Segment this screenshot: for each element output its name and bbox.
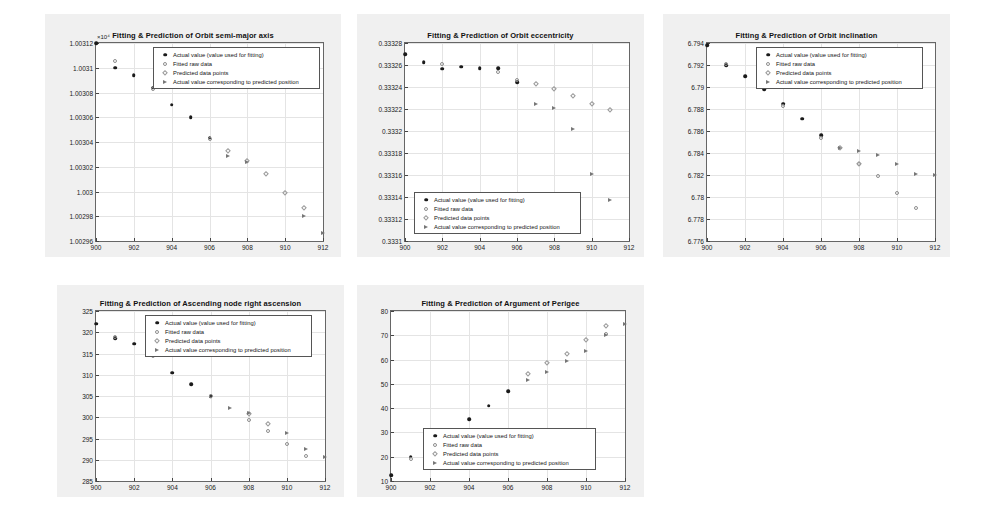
chart-title-argument-of-perigee: Fitting & Prediction of Argument of Peri… bbox=[357, 299, 644, 308]
legend-symbol bbox=[149, 336, 165, 345]
marker-actual-at-predicted-position bbox=[895, 162, 899, 166]
y-tick-mark bbox=[391, 408, 394, 409]
y-tick-mark bbox=[405, 131, 408, 132]
y-tick-mark bbox=[707, 153, 710, 154]
y-tick-label: 6.792 bbox=[688, 62, 704, 69]
legend-semi-major-axis: Actual value (value used for fitting)Fit… bbox=[153, 47, 320, 89]
marker-actual-at-predicted-position bbox=[304, 447, 308, 451]
legend-symbol bbox=[418, 195, 434, 204]
marker-actual-at-predicted-position bbox=[302, 214, 306, 218]
marker-fitted-raw-data bbox=[424, 207, 428, 211]
legend-label: Fitted raw data bbox=[443, 442, 482, 448]
marker-fitted-raw-data bbox=[724, 62, 728, 66]
y-tick-mark bbox=[96, 93, 99, 94]
x-tick-label: 900 bbox=[702, 244, 713, 251]
y-tick-mark bbox=[405, 43, 408, 44]
y-tick-mark bbox=[96, 354, 99, 355]
legend-row: Actual value (value used for fitting) bbox=[149, 318, 308, 327]
y-tick-label: 20 bbox=[381, 453, 388, 460]
marker-actual-at-predicted-position bbox=[604, 333, 608, 337]
legend-row: Actual value corresponding to predicted … bbox=[149, 345, 308, 354]
marker-actual-value bbox=[94, 41, 98, 45]
marker-actual-at-predicted-position bbox=[876, 153, 880, 157]
y-tick-label: 60 bbox=[381, 356, 388, 363]
marker-actual-value bbox=[389, 473, 393, 477]
y-tick-label: 40 bbox=[381, 405, 388, 412]
x-tick-mark bbox=[625, 478, 626, 481]
marker-actual-value bbox=[170, 103, 174, 107]
marker-predicted-data-point bbox=[856, 161, 862, 167]
y-tick-label: 1.003 bbox=[77, 188, 93, 195]
y-tick-mark bbox=[391, 384, 394, 385]
y-tick-label: 6.794 bbox=[688, 40, 704, 47]
y-tick-mark bbox=[707, 175, 710, 176]
legend-symbol bbox=[427, 440, 443, 449]
marker-fitted-raw-data bbox=[766, 62, 770, 66]
y-tick-mark bbox=[96, 417, 99, 418]
x-tick-mark bbox=[172, 478, 173, 481]
marker-actual-value bbox=[171, 371, 175, 375]
marker-actual-value bbox=[467, 417, 471, 421]
marker-actual-value bbox=[189, 115, 193, 119]
marker-fitted-raw-data bbox=[433, 443, 437, 447]
legend-symbol bbox=[157, 68, 173, 77]
y-tick-label: 6.778 bbox=[688, 216, 704, 223]
chart-title-ascending-node-right-ascension: Fitting & Prediction of Ascending node r… bbox=[57, 299, 344, 308]
marker-actual-at-predicted-position bbox=[323, 455, 327, 459]
legend-row: Actual value (value used for fitting) bbox=[427, 431, 592, 440]
legend-row: Actual value (value used for fitting) bbox=[157, 50, 316, 59]
y-axis-exponent-label: ×10⁴ bbox=[97, 34, 110, 40]
legend-inclination: Actual value (value used for fitting)Fit… bbox=[756, 47, 923, 89]
marker-actual-at-predicted-position bbox=[321, 231, 325, 235]
y-tick-label: 6.782 bbox=[688, 172, 704, 179]
legend-symbol bbox=[418, 222, 434, 231]
x-tick-label: 902 bbox=[129, 484, 140, 491]
marker-actual-at-predicted-position bbox=[933, 173, 937, 177]
legend-label: Actual value corresponding to predicted … bbox=[173, 79, 299, 85]
x-tick-mark bbox=[821, 238, 822, 241]
y-tick-label: 320 bbox=[82, 329, 93, 336]
legend-label: Predicted data points bbox=[443, 451, 499, 457]
y-tick-mark bbox=[391, 360, 394, 361]
y-tick-label: 0.33314 bbox=[379, 194, 403, 201]
marker-predicted-data-point bbox=[432, 451, 438, 457]
x-tick-label: 910 bbox=[892, 244, 903, 251]
legend-row: Actual value (value used for fitting) bbox=[760, 50, 919, 59]
marker-predicted-data-point bbox=[525, 371, 531, 377]
legend-row: Fitted raw data bbox=[760, 59, 919, 68]
figure-inner-ascending-node-right-ascension: Fitting & Prediction of Ascending node r… bbox=[57, 285, 344, 497]
marker-predicted-data-point bbox=[544, 360, 550, 366]
x-tick-label: 906 bbox=[512, 244, 523, 251]
x-tick-label: 904 bbox=[778, 244, 789, 251]
marker-actual-value bbox=[403, 52, 407, 56]
marker-actual-value bbox=[113, 66, 117, 70]
marker-fitted-raw-data bbox=[209, 394, 213, 398]
y-tick-label: 295 bbox=[82, 435, 93, 442]
y-tick-mark bbox=[96, 396, 99, 397]
marker-actual-value bbox=[422, 60, 426, 64]
marker-predicted-data-point bbox=[423, 215, 429, 221]
marker-fitted-raw-data bbox=[304, 454, 308, 458]
y-tick-mark bbox=[96, 375, 99, 376]
x-tick-mark bbox=[508, 478, 509, 481]
marker-actual-at-predicted-position bbox=[226, 154, 230, 158]
marker-actual-at-predicted-position bbox=[545, 370, 549, 374]
marker-fitted-raw-data bbox=[819, 136, 823, 140]
x-tick-label: 910 bbox=[280, 244, 291, 251]
y-tick-label: 6.79 bbox=[691, 84, 704, 91]
y-tick-mark bbox=[405, 153, 408, 154]
y-tick-mark bbox=[405, 65, 408, 66]
x-tick-mark bbox=[391, 478, 392, 481]
legend-label: Fitted raw data bbox=[173, 61, 212, 67]
x-tick-label: 902 bbox=[128, 244, 139, 251]
marker-actual-at-predicted-position bbox=[571, 127, 575, 131]
x-tick-label: 900 bbox=[386, 484, 397, 491]
marker-actual-at-predicted-position bbox=[552, 106, 556, 110]
chart-title-inclination: Fitting & Prediction of Orbit inclinatio… bbox=[663, 31, 950, 40]
legend-symbol bbox=[418, 213, 434, 222]
y-tick-label: 315 bbox=[82, 350, 93, 357]
y-tick-label: 1.00306 bbox=[70, 114, 94, 121]
y-tick-label: 1.00308 bbox=[70, 89, 94, 96]
marker-actual-value bbox=[94, 322, 98, 326]
y-tick-label: 6.786 bbox=[688, 128, 704, 135]
